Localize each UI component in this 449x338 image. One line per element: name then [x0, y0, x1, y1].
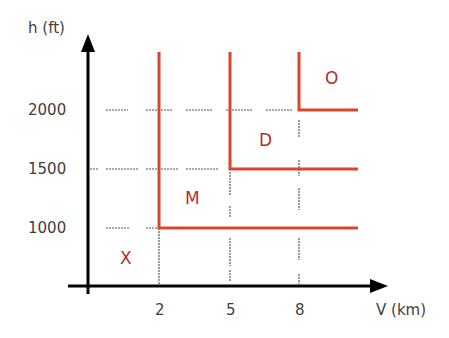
x-axis-label: V (km)	[376, 301, 426, 319]
region-m-label: M	[185, 188, 200, 208]
y-axis-label: h (ft)	[28, 19, 65, 37]
y-tick-1500: 1500	[28, 160, 66, 178]
y-tick-1000: 1000	[28, 219, 66, 237]
visibility-diagram: h (ft) V (km) 2000 1500 1000 2 5 8 X M D…	[0, 0, 449, 338]
axes	[68, 34, 388, 294]
x-axis-arrow-icon	[370, 279, 388, 293]
x-tick-5: 5	[226, 301, 236, 319]
x-tick-2: 2	[155, 301, 165, 319]
x-tick-8: 8	[295, 301, 305, 319]
region-d-label: D	[259, 130, 272, 150]
y-axis-arrow-icon	[81, 34, 95, 52]
region-x-label: X	[120, 248, 132, 268]
region-o-label: O	[325, 68, 338, 88]
y-tick-2000: 2000	[28, 101, 66, 119]
